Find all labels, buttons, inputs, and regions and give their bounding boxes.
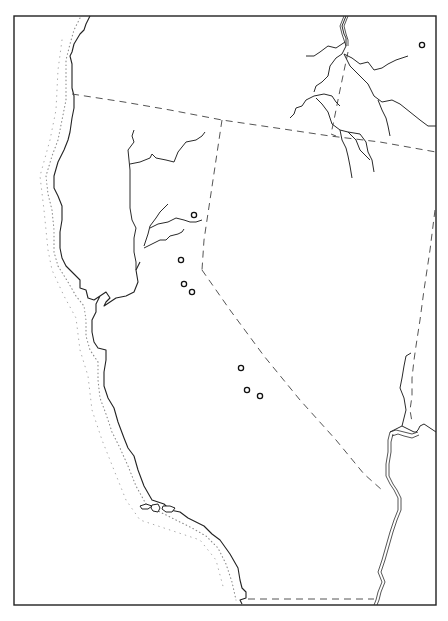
oregon-idaho-offset xyxy=(331,134,336,136)
idaho-oregon-border xyxy=(331,52,348,134)
john-day-fork xyxy=(340,130,352,178)
owyhee-river xyxy=(378,100,390,136)
oregon-california-border xyxy=(72,94,436,152)
site-6-marker xyxy=(244,387,249,392)
coastline xyxy=(54,16,246,604)
rivers xyxy=(128,16,436,432)
silvies-river xyxy=(348,132,374,172)
yuba-river xyxy=(150,218,202,228)
snake-river-east xyxy=(344,54,408,70)
willamette-fork xyxy=(290,96,314,118)
island xyxy=(140,504,152,509)
state-boundaries xyxy=(72,52,436,599)
colorado-river-upper xyxy=(390,353,411,432)
california-nevada-border-north xyxy=(202,120,222,270)
american-river xyxy=(144,229,184,248)
channel-islands xyxy=(140,504,175,512)
snake-river-lower xyxy=(344,54,436,126)
shelf-dotted-line-outer xyxy=(40,40,224,590)
california-nevada-border-diagonal xyxy=(202,270,382,490)
gila-junction xyxy=(402,424,436,432)
site-8-marker xyxy=(419,42,424,47)
nevada-arizona-border xyxy=(410,210,435,422)
site-1-marker xyxy=(191,212,196,217)
site-markers xyxy=(178,42,424,398)
site-5-marker xyxy=(238,365,243,370)
continental-shelf xyxy=(40,18,236,600)
site-2-marker xyxy=(178,257,183,262)
sacramento-river xyxy=(128,130,136,270)
map-canvas xyxy=(0,0,448,621)
john-day-river xyxy=(316,98,370,160)
columbia-river-west xyxy=(306,42,345,56)
island xyxy=(162,506,175,512)
columbia-river-main xyxy=(314,16,346,92)
site-3-marker xyxy=(181,281,186,286)
island xyxy=(151,504,160,512)
site-7-marker xyxy=(257,393,262,398)
gila-river-b xyxy=(392,434,419,438)
map-frame xyxy=(14,16,436,605)
pit-river xyxy=(130,132,205,164)
site-4-marker xyxy=(189,289,194,294)
colorado-river-a xyxy=(374,432,398,605)
